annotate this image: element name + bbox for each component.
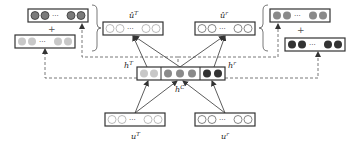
label-u-hat-r: ûr <box>220 10 228 20</box>
ellipsis: ··· <box>127 25 134 33</box>
ellipsis: ··· <box>52 12 59 20</box>
u-hat-T-vector: ··· <box>103 22 163 35</box>
u-r-input-vector: ··· <box>195 113 255 126</box>
ellipsis: ··· <box>219 116 226 124</box>
h-shared-vector <box>137 67 225 80</box>
ellipsis: ··· <box>129 116 136 124</box>
label-h-r: hr <box>228 60 236 70</box>
left-light-vector: ··· <box>15 35 75 48</box>
label-u-hat-T: ûT <box>129 10 138 20</box>
ellipsis: ··· <box>309 41 316 49</box>
ellipsis: ··· <box>39 38 46 46</box>
top-left-gray-vector: ··· <box>28 9 88 22</box>
label-u-T: uT <box>131 131 140 141</box>
ellipsis: ··· <box>219 25 226 33</box>
u-T-input-vector: ··· <box>105 113 165 126</box>
plus-sign-left: + <box>48 24 56 34</box>
label-h-C: hC <box>175 84 185 94</box>
architecture-diagram: ··· + ··· ûT ··· ûr ··· <box>0 0 357 147</box>
u-hat-r-vector: ··· <box>195 22 255 35</box>
h-to-u-hat-arrows <box>133 36 225 67</box>
left-brace <box>92 5 101 51</box>
top-right-gray-vector: ··· <box>270 9 330 22</box>
label-h-T: hT <box>124 60 133 70</box>
ellipsis: ··· <box>294 12 301 20</box>
plus-sign-right: + <box>297 25 305 35</box>
label-u-r: ur <box>221 131 229 141</box>
right-dark-vector: ··· <box>285 38 345 51</box>
right-brace <box>259 5 268 51</box>
dashed-line-to-right-dark <box>225 52 318 78</box>
h-C-segment <box>164 70 196 78</box>
